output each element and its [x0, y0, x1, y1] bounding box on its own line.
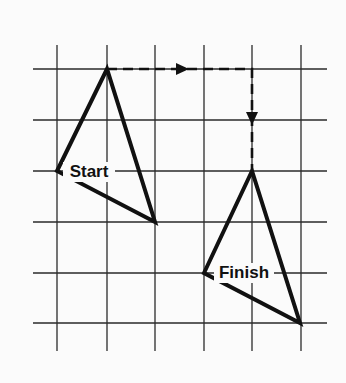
shapes [57, 69, 300, 323]
grid [33, 45, 327, 351]
translation-diagram: Start Finish [0, 0, 346, 383]
translation-path [107, 63, 258, 171]
finish-label: Finish [219, 263, 269, 282]
arrow-down-icon [246, 112, 258, 125]
start-label: Start [70, 162, 109, 181]
arrow-right-icon [176, 63, 189, 75]
start-triangle [57, 69, 155, 222]
